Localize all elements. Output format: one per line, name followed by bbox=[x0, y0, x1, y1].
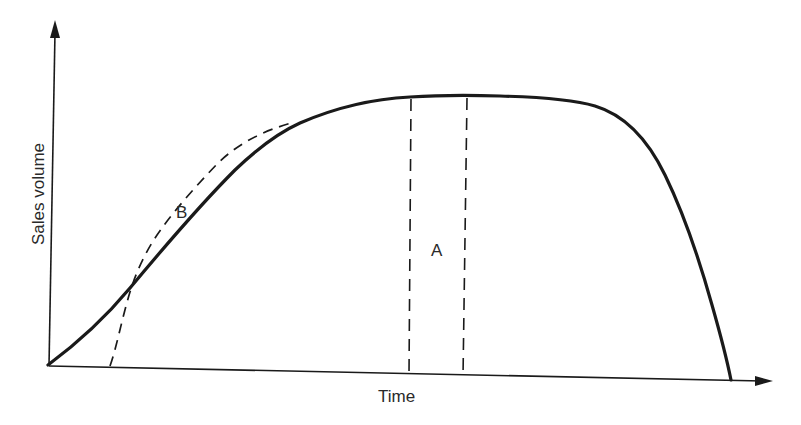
x-axis-label: Time bbox=[378, 387, 415, 406]
region-a-label: A bbox=[431, 241, 443, 260]
dashed-curve-b bbox=[110, 122, 295, 366]
curve-b-label: B bbox=[176, 203, 187, 222]
y-axis-arrow-icon bbox=[50, 20, 60, 38]
sales-lifecycle-diagram: B A Time Sales volume bbox=[0, 0, 801, 425]
x-axis bbox=[49, 366, 773, 386]
x-axis-arrow-icon bbox=[755, 376, 773, 386]
marker-a-left bbox=[409, 99, 411, 375]
y-axis bbox=[49, 20, 60, 366]
solid-lifecycle-curve bbox=[48, 95, 731, 380]
y-axis-label: Sales volume bbox=[29, 143, 48, 245]
marker-a-right bbox=[463, 98, 467, 377]
